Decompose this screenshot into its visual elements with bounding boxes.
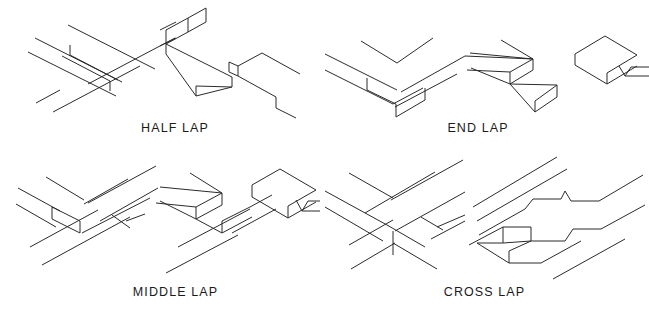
board-edge — [437, 215, 465, 227]
board-edge — [465, 56, 533, 59]
board-edge — [395, 192, 465, 231]
notch-tab-edge — [561, 191, 565, 199]
middle-lap-assembled-view — [16, 166, 158, 265]
board-front-face — [477, 243, 509, 263]
board-edge — [391, 160, 463, 200]
board-edge — [553, 239, 625, 279]
cross-lap-exploded-lower-piece — [469, 205, 645, 279]
board-edge — [42, 217, 130, 265]
caption-middle-lap: MIDDLE LAP — [118, 285, 233, 299]
board-edge — [349, 173, 393, 198]
board-edge — [431, 221, 465, 239]
board-edge — [479, 209, 525, 235]
notch-tab-edge — [296, 200, 302, 211]
board-edge — [250, 195, 272, 207]
lap-shoulder-edge — [52, 207, 80, 221]
board-edge — [229, 62, 238, 66]
notch-step-edge — [276, 108, 296, 118]
board-edge — [28, 52, 116, 96]
board-front-face — [166, 54, 196, 96]
board-edge — [53, 66, 140, 112]
board-bottom-edge — [288, 190, 316, 206]
board-bottom-edge — [607, 66, 637, 84]
board-front-face — [575, 65, 607, 84]
board-edge — [325, 191, 387, 225]
board-edge — [84, 179, 128, 204]
board-bottom-edge — [196, 86, 232, 87]
board-edge — [178, 209, 250, 247]
end-lap-assembled-view — [325, 38, 465, 117]
board-top-face — [252, 169, 280, 185]
notch-tab-edge — [565, 191, 571, 201]
board-edge — [397, 38, 433, 63]
board-edge — [112, 215, 130, 228]
notch-step-edge — [565, 229, 573, 241]
lap-shoulder-edge — [367, 90, 396, 104]
notch-floor-edge — [196, 205, 222, 219]
end-lap-exploded-upper-piece — [575, 36, 649, 84]
board-top-face — [262, 53, 300, 74]
notch-floor-edge — [510, 59, 533, 72]
board-bottom-edge — [535, 85, 557, 101]
figure-middle-lap — [0, 155, 320, 285]
board-edge — [16, 204, 56, 227]
half-lap-exploded-upper-piece — [160, 8, 232, 96]
notch-floor-edge — [510, 70, 533, 84]
board-edge — [599, 175, 643, 201]
board-edge — [361, 41, 397, 63]
half-lap-assembled-view — [28, 25, 175, 112]
board-top-face — [280, 169, 316, 190]
board-edge — [365, 172, 435, 213]
caption-cross-lap: CROSS LAP — [432, 285, 537, 299]
board-top-face — [166, 44, 232, 77]
caption-end-lap: END LAP — [438, 121, 518, 135]
lap-shoulder-edge — [62, 56, 110, 81]
lap-shoulder-edge — [52, 219, 80, 233]
board-edge — [477, 169, 567, 221]
board-edge — [166, 235, 238, 273]
board-edge — [325, 70, 393, 104]
board-bottom-edge — [535, 97, 557, 112]
board-bottom-edge — [196, 87, 232, 96]
board-front-face — [252, 197, 288, 218]
board-edge — [325, 54, 397, 90]
notch-floor-edge — [166, 18, 188, 30]
lap-joints-figure-sheet: HALF LAP — [0, 0, 649, 315]
figure-cross-lap — [325, 155, 649, 285]
figure-end-lap — [325, 0, 649, 120]
notch-edge — [188, 8, 206, 18]
board-edge — [349, 220, 393, 245]
board-edge — [393, 243, 437, 269]
cross-lap-exploded-upper-piece — [473, 157, 643, 235]
corner-end-face — [396, 100, 425, 117]
board-edge — [469, 227, 503, 245]
board-top-face — [238, 53, 262, 66]
board-edge — [229, 72, 238, 76]
board-edge — [156, 203, 196, 207]
notch-tab-edge — [302, 201, 308, 211]
board-top-face — [575, 36, 605, 54]
lap-shoulder-edge — [393, 88, 423, 104]
board-front-face — [238, 76, 276, 97]
board-edge — [88, 166, 156, 203]
board-top-face — [510, 84, 557, 85]
notch-floor-edge — [196, 193, 222, 207]
board-front-face — [160, 201, 196, 219]
board-edge — [30, 210, 98, 247]
board-edge — [351, 243, 395, 269]
cross-lap-assembled-view — [325, 160, 465, 269]
board-edge — [100, 188, 158, 221]
notch-floor-edge — [166, 32, 188, 44]
board-edge — [541, 241, 581, 263]
board-edge — [68, 25, 155, 69]
half-lap-exploded-lower-piece — [229, 53, 300, 118]
figure-half-lap — [0, 0, 320, 120]
board-front-face — [510, 84, 535, 112]
middle-lap-exploded-lower-piece — [156, 173, 276, 273]
board-edge — [421, 217, 443, 230]
caption-half-lap: HALF LAP — [135, 121, 215, 135]
notch-tab-edge — [625, 67, 631, 76]
board-edge — [325, 207, 383, 241]
board-top-face — [160, 187, 222, 193]
notch-edge — [188, 22, 206, 32]
